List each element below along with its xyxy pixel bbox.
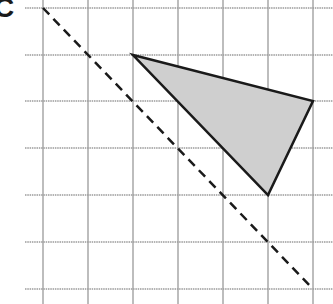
grid-diagram — [0, 0, 333, 304]
